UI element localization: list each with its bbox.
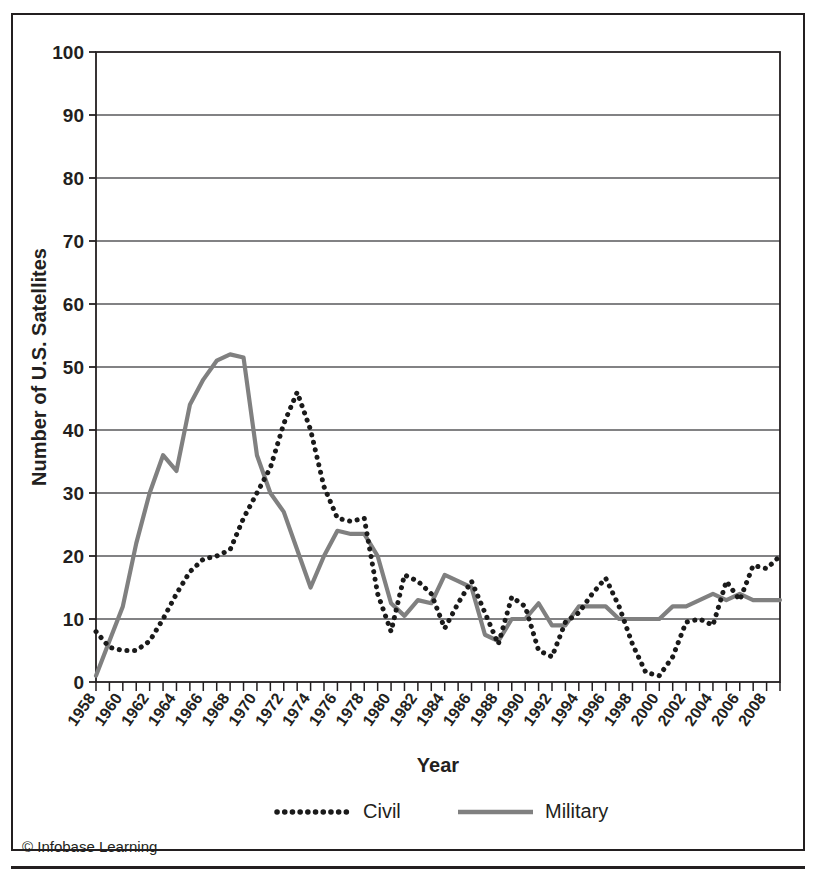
x-tick-label-1990: 1990 — [493, 690, 527, 729]
x-tick-label-1998: 1998 — [601, 690, 635, 729]
x-axis-ticks: 1958196019621964196619681970197219741976… — [64, 682, 780, 729]
x-tick-label-1986: 1986 — [440, 690, 474, 729]
x-tick-label-2002: 2002 — [654, 690, 688, 729]
x-tick-label-1982: 1982 — [386, 690, 420, 729]
civil-series-path — [96, 392, 780, 676]
y-tick-label-50: 50 — [63, 357, 84, 378]
legend-label-military: Military — [545, 800, 608, 822]
x-tick-label-1996: 1996 — [574, 690, 608, 729]
series-military-line — [96, 354, 780, 675]
x-tick-label-1962: 1962 — [118, 690, 152, 729]
x-tick-label-2000: 2000 — [627, 690, 661, 729]
y-tick-label-90: 90 — [63, 105, 84, 126]
figure-container: 0102030405060708090100 19581960196219641… — [0, 0, 817, 883]
x-tick-label-1958: 1958 — [64, 690, 98, 729]
y-tick-label-40: 40 — [63, 420, 84, 441]
y-tick-label-80: 80 — [63, 168, 84, 189]
y-tick-label-100: 100 — [52, 42, 84, 63]
x-tick-label-1980: 1980 — [359, 690, 393, 729]
copyright-credit: © Infobase Learning — [22, 838, 157, 855]
x-tick-label-2006: 2006 — [708, 690, 742, 729]
y-axis-title: Number of U.S. Satellites — [28, 248, 50, 486]
x-tick-label-1976: 1976 — [306, 690, 340, 729]
x-tick-label-1984: 1984 — [413, 690, 447, 729]
y-tick-label-0: 0 — [73, 672, 84, 693]
military-series-path — [96, 354, 780, 675]
x-tick-label-2004: 2004 — [681, 690, 715, 729]
x-tick-label-1964: 1964 — [145, 690, 179, 729]
x-tick-label-1988: 1988 — [466, 690, 500, 729]
x-tick-label-1972: 1972 — [252, 690, 286, 729]
chart-canvas: 0102030405060708090100 19581960196219641… — [0, 0, 817, 883]
x-tick-label-1968: 1968 — [198, 690, 232, 729]
x-tick-label-1970: 1970 — [225, 690, 259, 729]
y-tick-label-20: 20 — [63, 546, 84, 567]
series-civil-line — [96, 392, 780, 676]
x-tick-label-2008: 2008 — [735, 690, 769, 729]
chart-legend: CivilMilitary — [277, 800, 608, 822]
y-tick-label-30: 30 — [63, 483, 84, 504]
x-axis-title: Year — [417, 754, 459, 776]
x-tick-label-1974: 1974 — [279, 690, 313, 729]
footer-divider — [11, 866, 805, 869]
x-tick-label-1960: 1960 — [91, 690, 125, 729]
x-tick-label-1994: 1994 — [547, 690, 581, 729]
legend-label-civil: Civil — [363, 800, 401, 822]
y-axis-ticks: 0102030405060708090100 — [52, 42, 96, 693]
y-tick-label-10: 10 — [63, 609, 84, 630]
y-tick-label-60: 60 — [63, 294, 84, 315]
x-tick-label-1978: 1978 — [332, 690, 366, 729]
y-tick-label-70: 70 — [63, 231, 84, 252]
x-tick-label-1992: 1992 — [520, 690, 554, 729]
x-tick-label-1966: 1966 — [171, 690, 205, 729]
gridlines — [96, 52, 780, 619]
